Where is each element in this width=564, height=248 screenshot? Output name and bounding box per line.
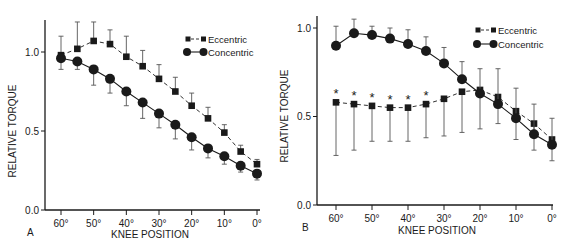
figure: 0.00.51.060°50°40°30°20°10°0°RELATIVE TO… xyxy=(0,0,564,248)
x-tick-label: 40° xyxy=(119,218,134,229)
circle-marker xyxy=(89,64,99,74)
x-tick-label: 10° xyxy=(217,218,232,229)
x-tick-label: 50° xyxy=(364,213,379,224)
circle-marker xyxy=(457,74,467,84)
square-marker xyxy=(237,148,244,155)
y-tick-label: 0.0 xyxy=(297,200,311,211)
circle-marker xyxy=(529,129,539,139)
circle-marker xyxy=(439,58,449,68)
square-marker xyxy=(139,63,146,70)
x-tick-label: 30° xyxy=(151,218,166,229)
legend-square-icon xyxy=(476,28,481,33)
circle-marker xyxy=(154,109,164,119)
x-tick-label: 60° xyxy=(328,213,343,224)
x-tick-label: 0° xyxy=(547,213,557,224)
chart-panel-b: 0.00.51.060°50°40°30°20°10°0°RELATIVE TO… xyxy=(279,16,557,236)
square-marker xyxy=(254,161,261,168)
circle-marker xyxy=(331,41,341,51)
x-tick-label: 40° xyxy=(400,213,415,224)
circle-marker xyxy=(203,143,213,153)
square-marker xyxy=(205,115,212,122)
circle-marker xyxy=(403,39,413,49)
circle-marker xyxy=(493,99,503,109)
significance-asterisk: * xyxy=(351,88,356,103)
x-tick-label: 60° xyxy=(53,218,68,229)
square-marker xyxy=(90,38,97,45)
legend-circle-icon xyxy=(490,40,498,48)
circle-marker xyxy=(170,120,180,130)
square-marker xyxy=(459,88,466,95)
circle-marker xyxy=(547,140,557,150)
circle-marker xyxy=(219,151,229,161)
circle-marker xyxy=(187,132,197,142)
legend-circle-icon xyxy=(200,48,208,56)
square-marker xyxy=(221,129,228,136)
square-marker xyxy=(172,88,179,95)
significance-asterisk: * xyxy=(387,92,392,107)
circle-marker xyxy=(121,87,131,97)
circle-marker xyxy=(252,169,262,179)
square-marker xyxy=(74,46,81,53)
y-tick-label: 1.0 xyxy=(25,47,39,58)
circle-marker xyxy=(236,161,246,171)
x-axis-label: KNEE POSITION xyxy=(111,229,189,240)
y-tick-label: 0.5 xyxy=(297,111,311,122)
significance-asterisk: * xyxy=(333,86,338,101)
legend-label: Concentric xyxy=(208,47,254,58)
legend-item-concentric: Concentric xyxy=(473,39,544,50)
square-marker xyxy=(188,102,195,109)
circle-marker xyxy=(349,28,359,38)
chart-panel-a: 0.00.51.060°50°40°30°20°10°0°RELATIVE TO… xyxy=(7,20,262,240)
panel-letter: B xyxy=(302,222,309,233)
circle-marker xyxy=(385,34,395,44)
legend-label: Concentric xyxy=(498,39,544,50)
circle-marker xyxy=(105,74,115,84)
y-axis-label: RELATIVE TORQUE xyxy=(7,84,18,177)
legend-circle-icon xyxy=(183,48,191,56)
x-axis-label: KNEE POSITION xyxy=(398,225,476,236)
x-tick-label: 0° xyxy=(252,218,262,229)
panel-letter: A xyxy=(27,227,34,238)
circle-marker xyxy=(367,30,377,40)
series-line xyxy=(61,41,257,164)
legend-square-icon xyxy=(186,37,191,42)
circle-marker xyxy=(56,53,66,63)
significance-asterisk: * xyxy=(423,88,428,103)
significance-asterisk: * xyxy=(369,90,374,105)
circle-marker xyxy=(511,113,521,123)
y-tick-label: 0.5 xyxy=(25,126,39,137)
square-marker xyxy=(107,41,114,48)
y-tick-label: 0.0 xyxy=(25,205,39,216)
square-marker xyxy=(441,96,448,103)
circle-marker xyxy=(475,88,485,98)
legend-item-eccentric: Eccentric xyxy=(476,25,538,36)
significance-asterisk: * xyxy=(405,92,410,107)
x-tick-label: 20° xyxy=(184,218,199,229)
circle-marker xyxy=(72,56,82,66)
legend-item-concentric: Concentric xyxy=(183,47,254,58)
x-tick-label: 20° xyxy=(472,213,487,224)
circle-marker xyxy=(138,98,148,108)
square-marker xyxy=(156,76,163,83)
legend-item-eccentric: Eccentric xyxy=(186,34,248,45)
legend: EccentricConcentric xyxy=(473,25,544,50)
circle-marker xyxy=(421,46,431,56)
legend-square-icon xyxy=(491,28,496,33)
y-tick-label: 1.0 xyxy=(297,23,311,34)
square-marker xyxy=(123,53,130,60)
legend-circle-icon xyxy=(473,40,481,48)
x-tick-label: 10° xyxy=(508,213,523,224)
legend-label: Eccentric xyxy=(498,25,537,36)
y-axis-label: RELATIVE TORQUE xyxy=(279,69,290,162)
legend-square-icon xyxy=(201,37,206,42)
x-tick-label: 30° xyxy=(436,213,451,224)
legend-label: Eccentric xyxy=(208,34,247,45)
legend: EccentricConcentric xyxy=(183,34,254,58)
x-tick-label: 50° xyxy=(86,218,101,229)
